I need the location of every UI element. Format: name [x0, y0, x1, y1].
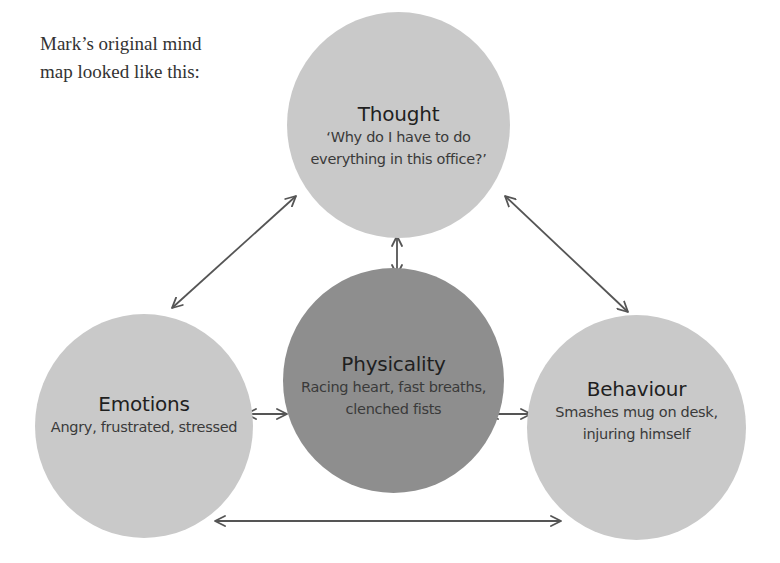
- node-thought-body: ‘Why do I have to do everything in this …: [311, 126, 487, 170]
- node-behaviour-body: Smashes mug on desk, injuring himself: [555, 401, 718, 445]
- node-thought-body-line-2: everything in this office?’: [311, 148, 487, 170]
- node-thought-title: Thought: [358, 102, 440, 126]
- node-behaviour-body-line-2: injuring himself: [555, 423, 718, 445]
- node-behaviour: Behaviour Smashes mug on desk, injuring …: [527, 315, 746, 540]
- node-behaviour-title: Behaviour: [587, 377, 687, 401]
- intro-line-1: Mark’s original mind: [40, 30, 280, 58]
- node-thought-body-line-1: ‘Why do I have to do: [311, 126, 487, 148]
- arrow-thought-behaviour-icon: [505, 196, 628, 312]
- node-physicality-body-line-1: Racing heart, fast breaths,: [301, 376, 486, 398]
- node-emotions: Emotions Angry, frustrated, stressed: [35, 314, 253, 538]
- node-physicality-body: Racing heart, fast breaths, clenched fis…: [301, 376, 486, 420]
- node-emotions-title: Emotions: [98, 392, 190, 416]
- intro-caption: Mark’s original mind map looked like thi…: [40, 30, 280, 86]
- intro-line-2: map looked like this:: [40, 58, 280, 86]
- node-physicality-body-line-2: clenched fists: [301, 398, 486, 420]
- node-emotions-body-line-1: Angry, frustrated, stressed: [51, 416, 237, 438]
- node-behaviour-body-line-1: Smashes mug on desk,: [555, 401, 718, 423]
- node-emotions-body: Angry, frustrated, stressed: [51, 416, 237, 438]
- node-thought: Thought ‘Why do I have to do everything …: [287, 12, 510, 238]
- node-physicality-title: Physicality: [341, 352, 445, 376]
- arrow-thought-emotions-icon: [172, 196, 296, 308]
- node-physicality: Physicality Racing heart, fast breaths, …: [283, 268, 504, 493]
